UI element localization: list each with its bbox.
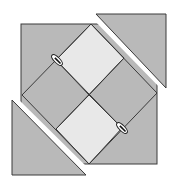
- quilt-diagram: [0, 0, 178, 188]
- diagram-canvas: [0, 0, 178, 188]
